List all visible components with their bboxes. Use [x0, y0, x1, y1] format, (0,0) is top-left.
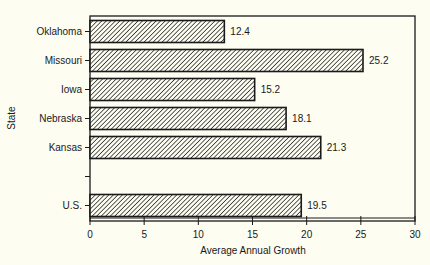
bar-oklahoma	[90, 21, 224, 43]
x-tick-label: 30	[409, 229, 421, 240]
bar-value-label: 21.3	[327, 142, 347, 153]
x-tick-label: 15	[247, 229, 259, 240]
bar-value-label: 15.2	[261, 84, 281, 95]
bar-value-label: 19.5	[307, 200, 327, 211]
bar-missouri	[90, 50, 363, 72]
x-tick-label: 5	[141, 229, 147, 240]
x-tick-label: 25	[355, 229, 367, 240]
y-tick-label: Nebraska	[39, 113, 82, 124]
bar-kansas	[90, 137, 321, 159]
bar-value-label: 25.2	[369, 55, 389, 66]
x-tick-label: 0	[87, 229, 93, 240]
bar-value-label: 12.4	[230, 26, 250, 37]
bar-nebraska	[90, 108, 286, 130]
x-axis-title: Average Annual Growth	[200, 245, 305, 256]
bar-value-label: 18.1	[292, 113, 312, 124]
y-tick-label: Missouri	[45, 55, 82, 66]
plot-area: Oklahoma12.4Missouri25.2Iowa15.2Nebraska…	[36, 16, 421, 240]
bar-iowa	[90, 79, 255, 101]
y-tick-label: U.S.	[63, 200, 82, 211]
x-tick-label: 10	[193, 229, 205, 240]
bar-chart: Oklahoma12.4Missouri25.2Iowa15.2Nebraska…	[0, 0, 430, 265]
x-tick-label: 20	[301, 229, 313, 240]
bar-us	[90, 195, 301, 217]
y-tick-label: Kansas	[49, 142, 82, 153]
y-tick-label: Oklahoma	[36, 26, 82, 37]
y-tick-label: Iowa	[61, 84, 83, 95]
y-axis-title: State	[6, 106, 17, 130]
